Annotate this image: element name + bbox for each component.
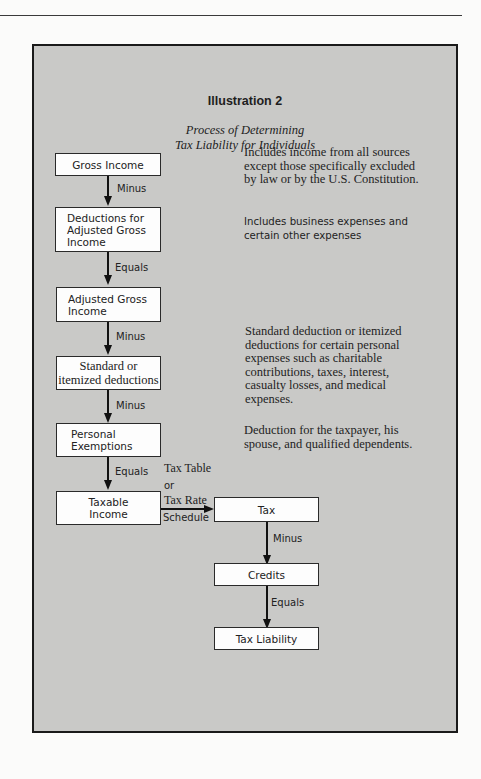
- description-personal-exemptions: Deduction for the taxpayer, his spouse, …: [244, 424, 412, 451]
- box-label: Tax: [258, 504, 275, 516]
- description-line: contributions, taxes, interest,: [245, 366, 402, 380]
- connector-label-schedule: Schedule: [163, 512, 209, 523]
- connector-label: Equals: [115, 466, 148, 477]
- box-tax-liability: Tax Liability: [214, 627, 319, 650]
- connector-label-tax-rate: Tax Rate: [164, 493, 207, 508]
- box-label: Income: [89, 508, 129, 520]
- connector-line: [107, 176, 109, 198]
- arrow-down-icon: [104, 480, 112, 490]
- arrow-down-icon: [104, 413, 112, 423]
- connector-label: Equals: [115, 262, 148, 273]
- connector-label-tax-table: Tax Table: [164, 461, 211, 476]
- description-line: Includes business expenses and: [244, 215, 408, 229]
- box-label: Credits: [248, 569, 285, 581]
- subtitle-line-1: Process of Determining: [34, 123, 456, 138]
- description-line: expenses such as charitable: [245, 352, 402, 366]
- box-label: Taxable: [89, 496, 129, 508]
- connector-label: Minus: [117, 183, 146, 194]
- description-line: Deduction for the taxpayer, his: [244, 424, 412, 438]
- description-deductions-agi: Includes business expenses and certain o…: [244, 215, 408, 243]
- description-line: except those specifically excluded: [244, 160, 419, 174]
- top-rule: [0, 15, 462, 16]
- connector-label: Minus: [116, 331, 145, 342]
- box-credits: Credits: [214, 563, 319, 586]
- connector-line: [161, 508, 206, 510]
- connector-line: [266, 586, 268, 620]
- description-line: casualty losses, and medical: [245, 379, 402, 393]
- box-label: Standard or: [58, 359, 158, 373]
- box-adjusted-gross-income: Adjusted Gross Income: [56, 287, 161, 322]
- box-tax: Tax: [214, 497, 319, 522]
- box-label: Personal: [71, 428, 132, 440]
- description-standard-itemized: Standard deduction or itemized deduction…: [245, 325, 402, 406]
- connector-line: [107, 322, 109, 346]
- box-label: Adjusted Gross: [67, 224, 146, 236]
- description-line: deductions for certain personal: [245, 339, 402, 353]
- description-line: Standard deduction or itemized: [245, 325, 402, 339]
- description-line: by law or by the U.S. Constitution.: [244, 173, 419, 187]
- description-line: Includes income from all sources: [244, 146, 419, 160]
- connector-line: [266, 522, 268, 556]
- connector-label-or: or: [164, 480, 174, 491]
- connector-label: Minus: [273, 533, 302, 544]
- box-standard-itemized: Standard or itemized deductions: [56, 356, 161, 390]
- box-label: Deductions for: [67, 212, 146, 224]
- connector-line: [107, 457, 109, 481]
- illustration-title: Illustration 2: [34, 94, 456, 108]
- connector-label: Equals: [271, 597, 304, 608]
- connector-line: [107, 390, 109, 414]
- box-label: Income: [68, 305, 147, 317]
- connector-line: [107, 252, 109, 276]
- arrow-down-icon: [104, 196, 112, 206]
- arrow-down-icon: [104, 345, 112, 355]
- box-label: Exemptions: [71, 440, 132, 452]
- box-gross-income: Gross Income: [55, 153, 161, 176]
- box-taxable-income: Taxable Income: [56, 491, 161, 525]
- connector-label: Minus: [116, 400, 145, 411]
- description-line: spouse, and qualified dependents.: [244, 438, 412, 452]
- box-personal-exemptions: Personal Exemptions: [56, 423, 161, 457]
- description-gross-income: Includes income from all sources except …: [244, 146, 419, 187]
- description-line: expenses.: [245, 393, 402, 407]
- box-deductions-agi: Deductions for Adjusted Gross Income: [55, 207, 161, 252]
- description-line: certain other expenses: [244, 229, 408, 243]
- box-label: Gross Income: [72, 159, 144, 171]
- box-label: Income: [67, 236, 146, 248]
- arrow-down-icon: [104, 275, 112, 285]
- box-label: Tax Liability: [236, 633, 298, 645]
- box-label: Adjusted Gross: [68, 293, 147, 305]
- box-label: itemized deductions: [58, 373, 158, 387]
